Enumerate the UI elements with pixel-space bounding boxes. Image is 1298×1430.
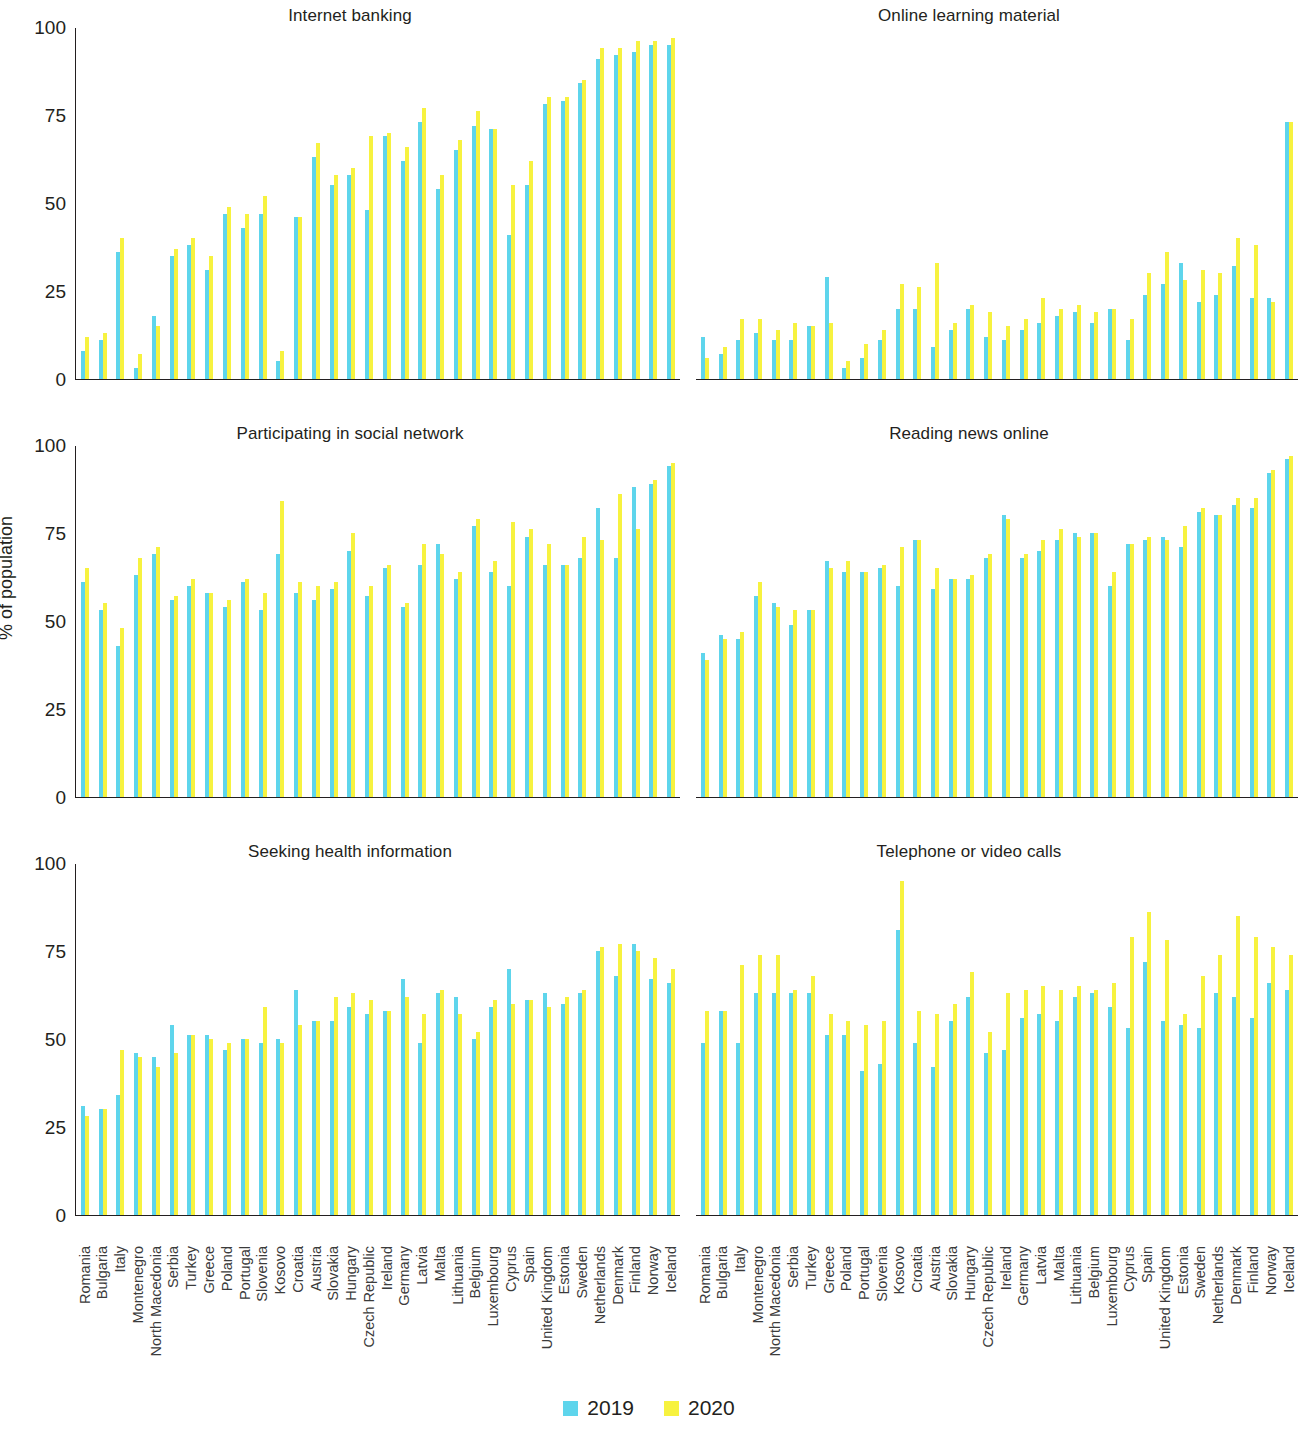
x-tick-label: Spain [1139, 1246, 1157, 1396]
x-tick-label-text: Belgium [1087, 1246, 1102, 1298]
chart-panel-top-right: Online learning material [640, 4, 1298, 380]
bar-group [802, 446, 820, 797]
bar-group [129, 446, 147, 797]
bar-2020 [776, 607, 780, 797]
chart-panel-middle-right: Reading news online [640, 422, 1298, 798]
bar-group [254, 446, 272, 797]
y-tick-label: 0 [55, 369, 66, 391]
x-tick-label: Hungary [342, 1246, 360, 1396]
bar-group [94, 28, 112, 379]
bar-group [183, 864, 201, 1215]
y-tick-label: 25 [45, 1117, 66, 1139]
bar-group [891, 446, 909, 797]
x-tick-label-text: Denmark [611, 1246, 626, 1305]
bar-group [218, 864, 236, 1215]
bar-group [218, 446, 236, 797]
x-tick-label: Austria [307, 1246, 325, 1396]
x-tick-label: Luxembourg [485, 1246, 503, 1396]
bar-2020 [191, 1035, 195, 1215]
bar-2020 [1165, 940, 1169, 1215]
bar-group [112, 446, 130, 797]
bar-group [1174, 446, 1192, 797]
bar-2020 [298, 217, 302, 379]
bar-group [838, 28, 856, 379]
x-tick-label-text: Poland [839, 1246, 854, 1291]
x-tick-label: Slovenia [254, 1246, 272, 1396]
bar-group [926, 28, 944, 379]
x-tick-label: Lithuania [449, 1246, 467, 1396]
bar-2020 [582, 990, 586, 1215]
bars-container [76, 28, 680, 380]
x-tick-label: Iceland [662, 1246, 680, 1396]
bar-2020 [1236, 916, 1240, 1215]
chart-panel-bottom-left: Seeking health information0255075100 [20, 840, 680, 1216]
bar-2020 [351, 533, 355, 797]
bar-2020 [1041, 298, 1045, 379]
bar-2020 [298, 582, 302, 797]
bar-2020 [174, 249, 178, 379]
x-tick-label: North Macedonia [147, 1246, 165, 1396]
bar-2020 [864, 572, 868, 797]
bar-2020 [405, 603, 409, 797]
bar-2020 [547, 97, 551, 379]
x-tick-label-text: Slovenia [255, 1246, 270, 1302]
bar-2020 [1201, 270, 1205, 379]
bar-group [467, 864, 485, 1215]
bar-group [183, 28, 201, 379]
bar-group [609, 28, 627, 379]
bar-2020 [227, 1043, 231, 1215]
bar-2020 [565, 565, 569, 797]
bar-2020 [882, 1021, 886, 1215]
bar-group [520, 28, 538, 379]
bar-group [609, 446, 627, 797]
x-tick-label-text: United Kingdom [540, 1246, 555, 1349]
chart-title: Telephone or video calls [640, 840, 1298, 864]
x-tick-label: Sweden [1192, 1246, 1210, 1396]
y-tick-label: 50 [45, 1029, 66, 1051]
bar-group [1068, 864, 1086, 1215]
legend-item-2019[interactable]: 2019 [563, 1396, 634, 1420]
bar-2020 [1059, 990, 1063, 1215]
bar-2020 [970, 305, 974, 379]
bar-2020 [1130, 937, 1134, 1215]
x-tick-label: Kosovo [891, 1246, 909, 1396]
x-tick-label: Czech Republic [360, 1246, 378, 1396]
x-tick-label-text: North Macedonia [768, 1246, 783, 1356]
x-tick-label-text: Netherlands [593, 1246, 608, 1324]
bar-2020 [636, 529, 640, 797]
x-tick-label: Estonia [1174, 1246, 1192, 1396]
x-tick-label: Czech Republic [979, 1246, 997, 1396]
bar-group [431, 446, 449, 797]
bar-2020 [917, 540, 921, 797]
x-tick-label-text: Kosovo [892, 1246, 907, 1294]
x-tick-label: Bulgaria [94, 1246, 112, 1396]
bar-group [1085, 864, 1103, 1215]
x-tick-label: Spain [520, 1246, 538, 1396]
x-tick-label: Serbia [785, 1246, 803, 1396]
y-tick-label: 100 [34, 17, 66, 39]
bar-group [183, 446, 201, 797]
y-tick-label: 50 [45, 193, 66, 215]
plot-area [640, 446, 1298, 798]
bar-2020 [280, 351, 284, 379]
bar-group [802, 864, 820, 1215]
bar-group [112, 28, 130, 379]
bar-2020 [85, 1116, 89, 1215]
legend-item-2020[interactable]: 2020 [664, 1396, 735, 1420]
bar-group [714, 864, 732, 1215]
bar-2020 [882, 330, 886, 379]
chart-title: Online learning material [640, 4, 1298, 28]
bar-2020 [1236, 498, 1240, 797]
x-tick-label: Ireland [997, 1246, 1015, 1396]
bar-group [360, 446, 378, 797]
x-tick-label-text: Latvia [415, 1246, 430, 1285]
x-tick-label-text: Czech Republic [362, 1246, 377, 1348]
bar-group [200, 446, 218, 797]
bar-group [1121, 28, 1139, 379]
x-tick-label-text: Cyprus [1122, 1246, 1137, 1292]
bar-2020 [740, 319, 744, 379]
bar-group [591, 446, 609, 797]
bar-2020 [120, 1050, 124, 1215]
bar-group [165, 446, 183, 797]
bar-2020 [1147, 537, 1151, 797]
